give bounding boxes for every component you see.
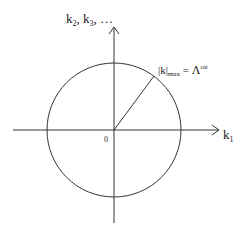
k2-k3-label: k2, k3, … — [66, 11, 113, 28]
k1-label: k1 — [223, 127, 234, 144]
momentum-cutoff-diagram: 0 k1 k2, k3, … |k|max = Λcut — [0, 0, 245, 231]
cutoff-annotation: |k|max = Λcut — [158, 63, 208, 78]
radius-line — [114, 76, 154, 130]
origin-label: 0 — [104, 135, 108, 144]
